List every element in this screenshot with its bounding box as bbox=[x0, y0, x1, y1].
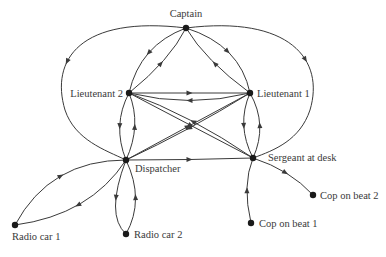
edge-captain-to-lieutenant1 bbox=[186, 28, 250, 93]
label-copbeat2: Cop on beat 2 bbox=[320, 190, 379, 201]
arrowhead-icon bbox=[133, 194, 138, 200]
node-lieutenant1 bbox=[247, 90, 253, 96]
edge-dispatcher-to-radiocar1 bbox=[15, 160, 126, 225]
communication-network-diagram: CaptainLieutenant 2Lieutenant 1Dispatche… bbox=[0, 0, 386, 257]
nodes-group bbox=[12, 25, 316, 237]
label-copbeat1: Cop on beat 1 bbox=[259, 218, 318, 229]
node-radiocar2 bbox=[123, 231, 129, 237]
node-captain bbox=[183, 25, 189, 31]
node-sergeant bbox=[250, 155, 256, 161]
label-captain: Captain bbox=[170, 8, 203, 19]
arrowhead-icon bbox=[244, 187, 249, 193]
arrowhead-icon bbox=[117, 123, 122, 129]
edge-lieutenant1-to-captain bbox=[186, 28, 250, 93]
edge-sergeant-to-lieutenant1 bbox=[250, 93, 260, 158]
node-radiocar1 bbox=[12, 222, 18, 228]
edge-lieutenant2-to-dispatcher bbox=[120, 93, 129, 160]
label-radiocar1: Radio car 1 bbox=[12, 231, 60, 242]
arrowhead-icon bbox=[187, 91, 193, 96]
node-lieutenant2 bbox=[126, 90, 132, 96]
arrowhead-icon bbox=[132, 124, 137, 130]
node-dispatcher bbox=[123, 157, 129, 163]
node-copbeat1 bbox=[248, 220, 254, 226]
edge-captain-to-lieutenant2 bbox=[129, 28, 186, 93]
arrowhead-icon bbox=[257, 122, 262, 128]
edges-group bbox=[15, 26, 313, 234]
arrowhead-icon bbox=[74, 201, 82, 208]
arrowhead-icon bbox=[282, 169, 290, 176]
arrowhead-icon bbox=[241, 123, 246, 129]
arrowhead-icon bbox=[57, 172, 65, 179]
arrowhead-icon bbox=[186, 157, 192, 162]
label-sergeant: Sergeant at desk bbox=[268, 152, 337, 163]
arrowhead-icon bbox=[113, 194, 119, 200]
edge-dispatcher-to-lieutenant2 bbox=[126, 93, 135, 160]
edge-radiocar1-to-dispatcher bbox=[15, 160, 126, 225]
label-dispatcher: Dispatcher bbox=[135, 163, 181, 174]
arrowhead-icon bbox=[302, 56, 309, 64]
label-lieutenant2: Lieutenant 2 bbox=[70, 88, 123, 99]
arrowhead-icon bbox=[186, 98, 192, 103]
node-copbeat2 bbox=[310, 192, 316, 198]
label-lieutenant1: Lieutenant 1 bbox=[257, 88, 310, 99]
edge-sergeant-to-copbeat2 bbox=[253, 158, 313, 195]
arrowhead-icon bbox=[64, 58, 71, 66]
edge-lieutenant2-to-captain bbox=[129, 28, 186, 93]
label-radiocar2: Radio car 2 bbox=[134, 229, 182, 240]
